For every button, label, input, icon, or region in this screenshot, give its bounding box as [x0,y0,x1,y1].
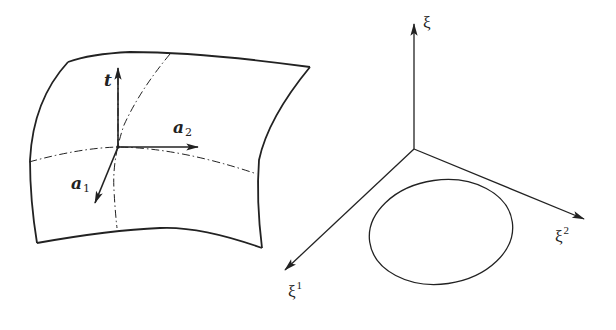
label-a2-subscript: 2 [185,126,192,139]
label-a1-base: a [71,173,82,193]
diagram-svg [0,0,616,330]
label-xi2-superscript: 2 [564,224,570,236]
label-xi2: ξ2 [555,225,569,245]
label-a1-subscript: 1 [83,182,90,195]
coordinate-line-xi2 [29,147,257,174]
origin-point [116,145,120,149]
surface-top-edge [68,52,310,67]
surface-patch [30,52,310,248]
parameter-axes [285,24,584,270]
label-xi1-base: ξ [288,282,296,301]
label-a2-base: a [173,117,184,137]
label-t: t [104,72,112,89]
coordinate-line-xi1 [114,54,170,228]
surface-left-edge [30,62,68,243]
boundary-curve [362,170,519,293]
label-xi: ξ [423,14,431,31]
surface-bottom-edge [37,228,262,248]
diagram-canvas: t a2 a1 ξ ξ1 ξ2 [0,0,616,330]
label-xi1-superscript: 1 [297,279,303,291]
axis-xi2 [414,149,584,219]
label-a2: a2 [173,119,192,138]
label-xi1: ξ1 [288,280,302,300]
coordinate-lines [29,54,257,228]
axis-xi1 [285,149,414,270]
label-a1: a1 [71,175,90,194]
surface-right-edge [258,67,310,248]
label-xi2-base: ξ [555,227,563,246]
